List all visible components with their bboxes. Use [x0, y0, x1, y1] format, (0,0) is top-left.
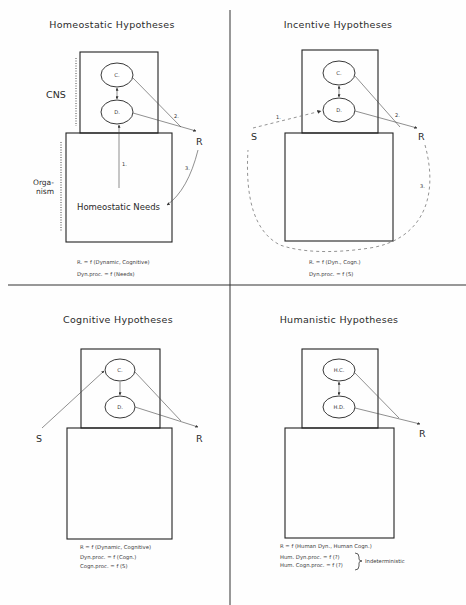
organism-box: [285, 428, 394, 538]
formula-2: Dyn.proc. = f (Needs): [77, 271, 135, 278]
formula-2: Dyn.proc. = f (S): [309, 271, 353, 278]
arrow-2-label: 2.: [395, 112, 400, 118]
title-incentive: Incentive Hypotheses: [284, 19, 393, 30]
arrow-3-label: 3.: [185, 165, 190, 171]
hd-to-r-arrow: [355, 408, 420, 424]
formula-3: Hum. Cogn.proc. = f (?): [280, 562, 343, 569]
organism-box: [285, 133, 393, 241]
indeterministic-label: Indeterministic: [365, 558, 405, 564]
node-hd-label: H.D.: [333, 404, 344, 410]
formula-1: R = f (Dynamic, Cognitive): [80, 544, 151, 551]
quadrant-homeostatic: Homeostatic Hypotheses CNS Orga- nism C.…: [33, 19, 203, 278]
arrow-3-loop: [247, 145, 429, 252]
title-homeostatic: Homeostatic Hypotheses: [49, 19, 175, 30]
node-d-label: D.: [114, 109, 120, 115]
node-hc-label: H.C.: [334, 367, 345, 373]
arrow-1-label: 1.: [122, 161, 127, 167]
d-to-r-arrow: [135, 407, 198, 427]
arrow-1-label: 1.: [276, 114, 281, 120]
homeostatic-needs-label: Homeostatic Needs: [77, 202, 161, 212]
quadrant-cognitive: Cognitive Hypotheses C. D. S R R = f (Dy…: [36, 314, 203, 570]
organism-label-1: Orga-: [33, 178, 54, 187]
node-s: S: [36, 433, 42, 444]
node-c-label: C.: [114, 72, 120, 78]
node-d-label: D.: [117, 404, 123, 410]
node-r: R: [418, 131, 425, 142]
node-s: S: [251, 131, 257, 142]
quadrant-incentive: Incentive Hypotheses C. D. 1. S 2. R 3. …: [247, 19, 429, 278]
d-to-r-arrow: [133, 113, 196, 131]
formula-1: R. = f (Dyn., Cogn.): [309, 259, 361, 266]
c-to-r-line: [135, 372, 181, 421]
formula-3: Cogn.proc. = f (S): [80, 563, 127, 570]
quadrant-humanistic: Humanistic Hypotheses H.C. H.D. R R = f …: [280, 314, 426, 570]
organism-label-2: nism: [36, 187, 54, 196]
node-r: R: [196, 136, 203, 147]
d-to-r-arrow: [355, 111, 417, 128]
brace: [355, 553, 362, 570]
formula-2: Dyn.proc. = f (Cogn.): [80, 554, 136, 561]
arrow-3-label: 3.: [420, 183, 425, 189]
diagram-canvas: Homeostatic Hypotheses CNS Orga- nism C.…: [0, 0, 466, 605]
node-d-label: D.: [336, 107, 342, 113]
hc-to-r-line: [355, 373, 399, 418]
node-c-label: C.: [336, 70, 342, 76]
s-to-c-arrow: [42, 371, 104, 428]
arrow-2-label: 2.: [174, 113, 179, 119]
formula-1: R = f (Human Dyn., Human Cogn.): [280, 543, 372, 550]
node-c-label: C.: [117, 367, 123, 373]
formula-2: Hum. Dyn.proc. = f (?): [280, 554, 340, 561]
formula-1: R. = f (Dynamic, Cognitive): [77, 259, 149, 266]
cns-label: CNS: [46, 89, 66, 100]
organism-box: [67, 428, 172, 539]
s-to-d-arrow: [253, 111, 321, 128]
title-cognitive: Cognitive Hypotheses: [63, 314, 173, 325]
hypotheses-figure: Homeostatic Hypotheses CNS Orga- nism C.…: [0, 0, 466, 605]
node-r: R: [419, 428, 426, 439]
node-r: R: [196, 433, 203, 444]
title-humanistic: Humanistic Hypotheses: [280, 314, 399, 325]
